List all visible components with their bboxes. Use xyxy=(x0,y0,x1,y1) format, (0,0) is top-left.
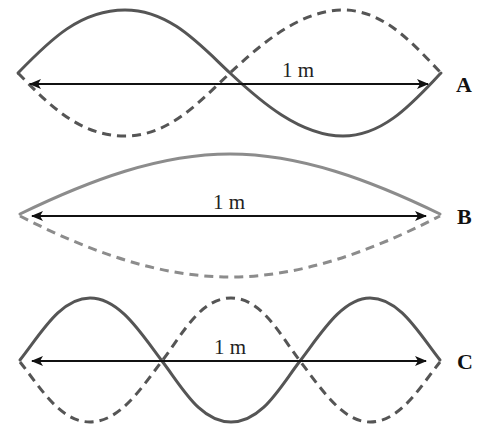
panel-label-a: A xyxy=(456,72,472,97)
length-label-a: 1 m xyxy=(282,58,314,82)
length-label-c: 1 m xyxy=(214,335,246,359)
panel-b: 1 m B xyxy=(20,154,472,277)
panel-label-c: C xyxy=(457,349,473,374)
panel-label-b: B xyxy=(457,204,472,229)
length-label-b: 1 m xyxy=(213,190,245,214)
panel-c: 1 m C xyxy=(20,298,473,422)
wave-b-dashed xyxy=(20,216,440,277)
panel-a: 1 m A xyxy=(18,10,472,136)
standing-wave-diagram: 1 m A 1 m B 1 m C xyxy=(0,0,488,437)
wave-a-solid xyxy=(18,10,441,136)
